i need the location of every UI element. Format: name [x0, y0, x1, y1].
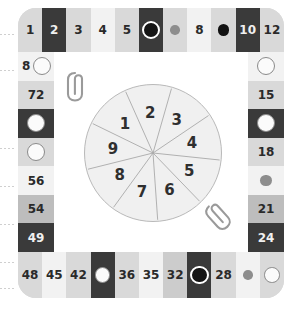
- spinner-sector-6: 6: [164, 182, 174, 197]
- right-cell-3[interactable]: 18: [248, 138, 284, 167]
- cell-value: 4: [98, 24, 106, 36]
- top-cell-1[interactable]: 2: [42, 8, 66, 52]
- cell-value: 12: [264, 24, 281, 36]
- cell-value: 10: [239, 24, 256, 36]
- top-cell-4[interactable]: 5: [115, 8, 139, 52]
- guide-mark: [0, 288, 16, 289]
- left-cell-6[interactable]: 49: [18, 223, 54, 252]
- cell-value: 15: [258, 89, 275, 101]
- bottom-cell-1[interactable]: 45: [42, 252, 66, 298]
- bottom-cell-9[interactable]: [236, 252, 260, 298]
- black-ring-marker: [190, 266, 209, 285]
- paperclip-upper-left[interactable]: [62, 70, 92, 108]
- spinner-sector-4: 4: [187, 136, 197, 151]
- right-cell-2[interactable]: [248, 109, 284, 138]
- cell-value: 24: [258, 232, 275, 244]
- bottom-cell-8[interactable]: 28: [211, 252, 235, 298]
- gray-marker: [260, 175, 271, 186]
- cell-value: 1: [26, 24, 34, 36]
- guide-mark: [0, 262, 16, 263]
- guide-mark: [0, 148, 16, 149]
- bottom-cell-7[interactable]: [187, 252, 211, 298]
- cell-value: 72: [28, 89, 45, 101]
- cell-value: 56: [28, 175, 45, 187]
- bottom-cell-3[interactable]: [91, 252, 115, 298]
- white-marker: [33, 57, 51, 75]
- bottom-cell-10[interactable]: [260, 252, 284, 298]
- cell-value: 28: [215, 269, 232, 281]
- guide-mark: [0, 70, 16, 71]
- guide-mark: [0, 224, 16, 225]
- top-cell-6[interactable]: [163, 8, 187, 52]
- top-cell-3[interactable]: 4: [91, 8, 115, 52]
- paperclip-icon: [62, 70, 92, 104]
- spinner-sector-1: 1: [120, 117, 130, 132]
- spinner-sector-7: 7: [137, 184, 147, 199]
- right-cell-6[interactable]: 24: [248, 223, 284, 252]
- top-cell-0[interactable]: 1: [18, 8, 42, 52]
- cell-value: 45: [46, 269, 63, 281]
- cell-value: 35: [143, 269, 160, 281]
- spinner-sector-8: 8: [114, 168, 124, 183]
- gray-marker: [243, 270, 253, 280]
- left-cell-1[interactable]: 72: [18, 81, 54, 110]
- left-cell-2[interactable]: [18, 109, 54, 138]
- cell-value: 5: [123, 24, 131, 36]
- cell-value: 54: [28, 203, 45, 215]
- white-marker: [27, 114, 45, 132]
- top-cell-7[interactable]: 8: [187, 8, 211, 52]
- cell-value: 21: [258, 203, 275, 215]
- left-cell-0[interactable]: 8: [18, 52, 54, 81]
- cell-value: 18: [258, 146, 275, 158]
- board-frame: 1234581012484542363532288725654491518212…: [18, 8, 284, 298]
- cell-value: 2: [50, 24, 58, 36]
- cell-value: 32: [167, 269, 184, 281]
- bottom-cell-2[interactable]: 42: [66, 252, 90, 298]
- left-cell-5[interactable]: 54: [18, 195, 54, 224]
- bottom-cell-0[interactable]: 48: [18, 252, 42, 298]
- right-cell-4[interactable]: [248, 166, 284, 195]
- white-marker: [264, 267, 280, 283]
- left-cell-3[interactable]: [18, 138, 54, 167]
- cell-value: 8: [195, 24, 203, 36]
- spinner-sector-2: 2: [145, 105, 155, 120]
- nine-sector-spinner[interactable]: 123456789: [84, 84, 222, 222]
- left-cell-4[interactable]: 56: [18, 166, 54, 195]
- game-board-canvas: 1234581012484542363532288725654491518212…: [0, 0, 302, 313]
- cell-value: 49: [28, 232, 45, 244]
- spinner-sector-9: 9: [108, 141, 118, 156]
- cell-value: 3: [74, 24, 82, 36]
- top-cell-5[interactable]: [139, 8, 163, 52]
- cell-value: 42: [70, 269, 87, 281]
- bottom-cell-6[interactable]: 32: [163, 252, 187, 298]
- white-marker: [27, 143, 45, 161]
- top-cell-10[interactable]: 12: [260, 8, 284, 52]
- top-cell-8[interactable]: [211, 8, 235, 52]
- gray-marker: [170, 25, 180, 35]
- black-marker: [218, 24, 229, 35]
- top-cell-2[interactable]: 3: [66, 8, 90, 52]
- right-cell-5[interactable]: 21: [248, 195, 284, 224]
- cell-value: 48: [22, 269, 39, 281]
- bottom-cell-5[interactable]: 35: [139, 252, 163, 298]
- white-marker: [257, 114, 275, 132]
- top-cell-9[interactable]: 10: [236, 8, 260, 52]
- guide-mark: [0, 34, 16, 35]
- bottom-cell-4[interactable]: 36: [115, 252, 139, 298]
- cell-value: 8: [22, 60, 30, 72]
- black-ring-marker: [142, 21, 161, 40]
- right-cell-0[interactable]: [248, 52, 284, 81]
- white-marker: [257, 57, 275, 75]
- white-marker: [95, 267, 111, 283]
- cell-value: 36: [118, 269, 135, 281]
- spinner-sector-3: 3: [171, 113, 181, 128]
- guide-mark: [0, 186, 16, 187]
- spinner-sector-5: 5: [184, 163, 194, 178]
- right-cell-1[interactable]: 15: [248, 81, 284, 110]
